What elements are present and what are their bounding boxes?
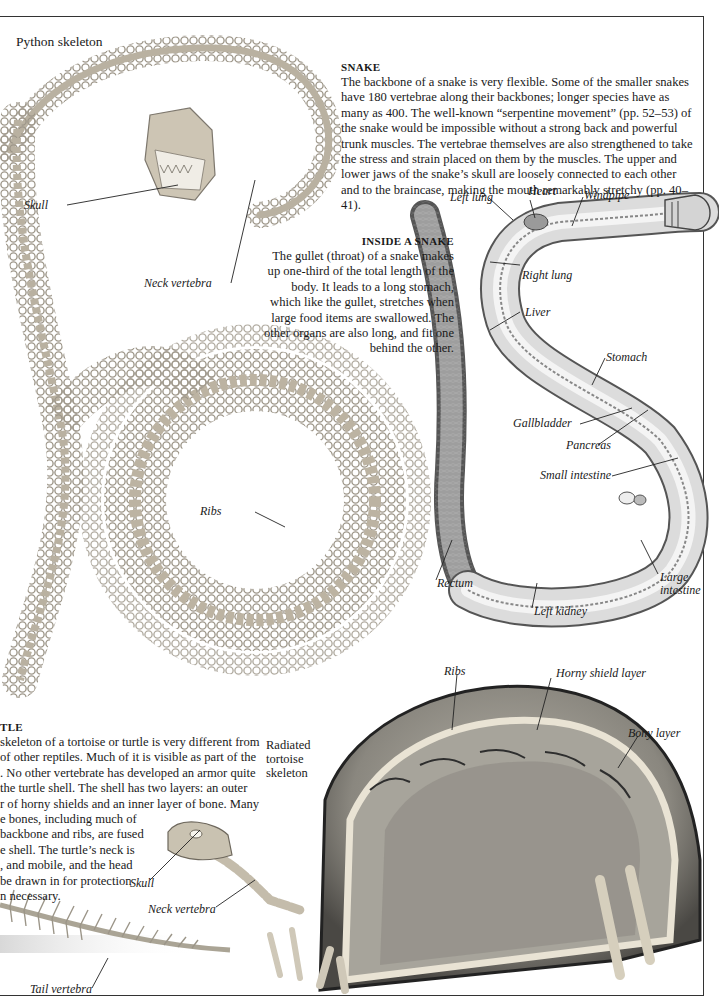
label-stomach: Stomach [606,350,647,364]
turtle-line: skeleton of a tortoise or turtle is very… [0,735,246,750]
turtle-section: TLE skeleton of a tortoise or turtle is … [0,720,246,904]
turtle-heading: TLE [0,720,246,735]
turtle-body: skeleton of a tortoise or turtle is very… [0,735,246,904]
label-small-intestine: Small intestine [540,468,611,482]
label-bony-layer: Bony layer [628,726,680,740]
label-right-lung: Right lung [522,268,572,282]
label-horny-shield-layer: Horny shield layer [556,666,646,680]
label-tail-vertebra: Tail vertebra [30,982,92,996]
label-left-kidney: Left kidney [534,604,587,618]
tortoise-skeleton-title: Radiated tortoise skeleton [266,738,336,780]
label-rectum: Rectum [437,576,473,590]
label-tortoise-neck-vertebra: Neck vertebra [148,902,216,916]
turtle-line: e shell. The turtle’s neck is [0,843,246,858]
label-gallbladder: Gallbladder [513,416,572,430]
python-skeleton-title: Python skeleton [16,34,103,49]
label-tortoise-skull: Skull [130,876,154,890]
inside-snake-heading: INSIDE A SNAKE [262,234,454,249]
label-left-lung: Left lung [450,190,493,204]
label-heart: Heart [528,184,556,198]
snake-body: The backbone of a snake is very flexible… [341,75,697,214]
snake-heading: SNAKE [341,60,697,75]
turtle-line: backbone and ribs, are fused [0,827,246,842]
turtle-line: , and mobile, and the head [0,858,246,873]
turtle-line: . No other vertebrate has developed an a… [0,766,246,781]
label-python-skull: Skull [24,198,48,212]
snake-section: SNAKE The backbone of a snake is very fl… [341,60,697,214]
inside-snake-body: The gullet (throat) of a snake makes up … [262,249,454,357]
turtle-line: of other reptiles. Much of it is visible… [0,750,246,765]
turtle-line: r of horny shields and an inner layer of… [0,797,246,812]
label-tortoise-ribs: Ribs [444,664,465,678]
snake-anatomy-diagram [425,195,710,607]
label-large-intestine-line2: intestine [660,583,701,597]
turtle-line: the turtle shell. The shell has two laye… [0,781,246,796]
python-skull-drawing [145,108,215,200]
turtle-line: be drawn in for protection [0,874,246,889]
label-python-ribs: Ribs [200,504,221,518]
label-python-neck-vertebra: Neck vertebra [144,276,212,290]
label-large-intestine-line1: Large [660,570,688,584]
turtle-line: e bones, including much of [0,812,246,827]
label-pancreas: Pancreas [566,438,611,452]
label-liver: Liver [525,305,550,319]
label-windpipe: Windpipe [584,188,629,202]
inside-snake-section: INSIDE A SNAKE The gullet (throat) of a … [262,234,454,357]
